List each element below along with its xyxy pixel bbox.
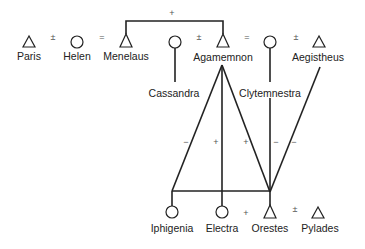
label-agamemnon: Agamemnon (193, 51, 253, 63)
sign-cassandra-agamemnon: ± (197, 32, 202, 42)
sign-menelaus-agamemnon: + (169, 8, 174, 18)
sign-agamemnon-electra: + (213, 137, 218, 147)
sign-orestes-pylades: ± (293, 204, 298, 214)
label-aegistheus: Aegistheus (292, 51, 344, 63)
sign-aegistheus-orestes: − (291, 137, 296, 147)
menelaus-triangle-icon (120, 34, 132, 47)
sign-agamemnon-orestes: + (243, 137, 248, 147)
sign-paris-helen: ± (51, 32, 56, 42)
iphigenia-circle-icon (166, 206, 178, 218)
label-electra: Electra (206, 222, 239, 234)
aegistheus-orestes-line (270, 67, 320, 192)
clytemnestra-circle-icon (264, 36, 276, 48)
cassandra-circle-icon (169, 36, 181, 48)
sign-electra-orestes: + (243, 208, 248, 218)
sign-agamemnon-iphigenia: − (183, 137, 188, 147)
label-orestes: Orestes (252, 222, 289, 234)
label-clytemnestra: Clytemnestra (239, 87, 301, 99)
agamemnon-triangle-icon (217, 34, 229, 47)
sign-helen-menelaus: = (99, 32, 104, 42)
label-helen: Helen (63, 50, 91, 62)
agamemnon-orestes-line (222, 65, 270, 192)
label-menelaus: Menelaus (103, 50, 149, 62)
orestes-triangle-icon (264, 205, 276, 218)
kinship-diagram: + − + + − − ± = ± = ± Paris Helen Menela… (0, 0, 365, 249)
agamemnon-iphigenia-line (172, 65, 222, 191)
sign-clytemnestra-orestes: − (273, 137, 278, 147)
sign-clytemnestra-aegistheus: ± (294, 32, 299, 42)
label-paris: Paris (17, 50, 41, 62)
electra-circle-icon (216, 206, 228, 218)
sign-agamemnon-clytemnestra: = (244, 32, 249, 42)
paris-triangle-icon (23, 36, 35, 47)
helen-circle-icon (71, 36, 83, 48)
label-pylades: Pylades (301, 222, 338, 234)
pylades-triangle-icon (312, 207, 324, 218)
label-iphigenia: Iphigenia (151, 222, 194, 234)
aegistheus-triangle-icon (313, 36, 325, 47)
label-cassandra: Cassandra (149, 87, 200, 99)
sibling-bracket-menelaus-agamemnon (126, 21, 223, 34)
